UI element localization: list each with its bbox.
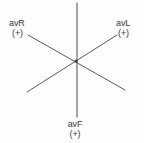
axis-center-point xyxy=(74,59,77,62)
lead-polarity-avf: (+) xyxy=(62,129,88,139)
lead-label-avr: avR (+) xyxy=(9,18,25,38)
lead-label-avf: avF (+) xyxy=(62,119,88,139)
lead-label-avl: avL (+) xyxy=(116,18,130,38)
axis-line-avl-diagonal xyxy=(27,35,117,92)
lead-name-avl: avL xyxy=(116,18,130,28)
lead-polarity-avl: (+) xyxy=(116,28,130,38)
lead-name-avf: avF xyxy=(62,119,88,129)
lead-polarity-avr: (+) xyxy=(9,28,25,38)
lead-name-avr: avR xyxy=(9,18,25,28)
hexaxial-lead-diagram: avR (+) avL (+) avF (+) xyxy=(0,0,144,143)
